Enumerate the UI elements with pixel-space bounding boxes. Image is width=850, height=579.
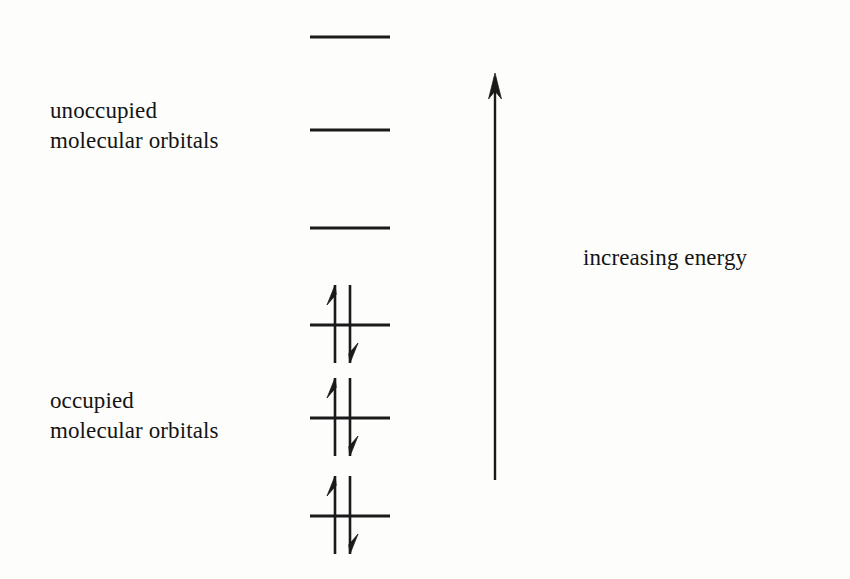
orbital-levels-graphic <box>0 0 850 579</box>
occupied-level-1 <box>310 476 390 554</box>
occupied-level-2 <box>310 378 390 456</box>
occupied-orbital-group <box>310 285 390 554</box>
energy-axis-arrow <box>489 73 502 480</box>
mo-energy-diagram: unoccupied molecular orbitals occupied m… <box>0 0 850 579</box>
unoccupied-orbital-group <box>310 37 390 228</box>
occupied-level-3 <box>310 285 390 363</box>
